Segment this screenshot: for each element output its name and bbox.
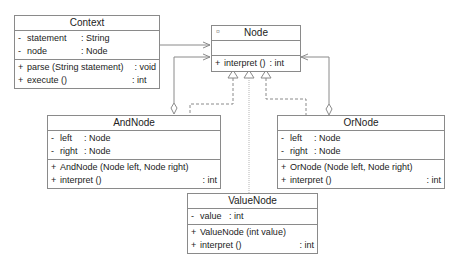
attribute-type: : Node xyxy=(81,45,108,58)
operation-name: interpret () xyxy=(200,239,242,252)
operation-name: interpret () xyxy=(224,57,266,70)
attributes-section: - left : Node - right : Node xyxy=(48,131,220,160)
attribute-row: - left : Node xyxy=(51,132,217,145)
operation-return-type: : int xyxy=(426,174,441,187)
attributes-section xyxy=(212,41,300,56)
interface-icon: ¤ xyxy=(216,26,220,38)
class-name: AndNode xyxy=(48,116,220,131)
attribute-type: : String xyxy=(81,32,110,45)
class-header: ¤ Node xyxy=(212,26,300,41)
visibility: - xyxy=(281,145,290,158)
operation-name: AndNode (Node left, Node right) xyxy=(60,161,189,174)
operations-section: + ValueNode (int value) + interpret () :… xyxy=(188,225,317,253)
attributes-section: - value : int xyxy=(188,209,317,225)
visibility: + xyxy=(215,57,224,70)
operation-row: + ValueNode (int value) xyxy=(191,226,314,239)
operation-return-type: : void xyxy=(134,61,156,74)
operation-row: + interpret () : int xyxy=(51,174,217,187)
operations-section: + AndNode (Node left, Node right) + inte… xyxy=(48,160,220,188)
class-name: Context xyxy=(15,16,159,31)
class-andnode[interactable]: AndNode - left : Node - right : Node + A… xyxy=(47,115,221,189)
visibility: + xyxy=(281,174,290,187)
realization-andnode-node xyxy=(190,70,238,115)
visibility: + xyxy=(18,61,27,74)
attribute-row: - right : Node xyxy=(51,145,217,158)
attribute-name: right xyxy=(290,145,314,158)
attribute-name: left xyxy=(290,132,314,145)
operations-section: + OrNode (Node left, Node right) + inter… xyxy=(278,160,444,188)
class-node[interactable]: ¤ Node + interpret () : int xyxy=(211,25,301,72)
attribute-type: : int xyxy=(229,210,244,223)
operations-section: + parse (String statement) : void + exec… xyxy=(15,60,159,88)
visibility: - xyxy=(191,210,200,223)
visibility: + xyxy=(18,74,27,87)
operation-return-type: : int xyxy=(132,74,156,87)
realization-valuenode-node xyxy=(244,70,254,193)
attributes-section: - statement : String - node : Node xyxy=(15,31,159,60)
class-ornode[interactable]: OrNode - left : Node - right : Node + Or… xyxy=(277,115,445,189)
operation-row: + AndNode (Node left, Node right) xyxy=(51,161,217,174)
visibility: - xyxy=(18,45,27,58)
visibility: + xyxy=(191,239,200,252)
class-context[interactable]: Context - statement : String - node : No… xyxy=(14,15,160,89)
attributes-section: - left : Node - right : Node xyxy=(278,131,444,160)
visibility: + xyxy=(191,226,200,239)
realization-ornode-node xyxy=(261,70,306,115)
visibility: - xyxy=(51,145,60,158)
attribute-name: node xyxy=(27,45,81,58)
operation-row: + interpret () : int xyxy=(191,239,314,252)
class-name: ValueNode xyxy=(188,194,317,209)
attribute-type: : Node xyxy=(314,132,341,145)
attribute-row: - value : int xyxy=(191,210,314,223)
visibility: - xyxy=(281,132,290,145)
attribute-row: - node : Node xyxy=(18,45,156,58)
operation-name: OrNode (Node left, Node right) xyxy=(290,161,413,174)
attribute-name: left xyxy=(60,132,84,145)
visibility: - xyxy=(18,32,27,45)
operation-return-type: : int xyxy=(270,57,285,70)
visibility: + xyxy=(281,161,290,174)
attribute-name: value xyxy=(200,210,229,223)
attribute-name: right xyxy=(60,145,84,158)
operation-return-type: : int xyxy=(202,174,217,187)
visibility: - xyxy=(51,132,60,145)
operation-name: ValueNode (int value) xyxy=(200,226,286,239)
operation-row: + parse (String statement) : void xyxy=(18,61,156,74)
class-valuenode[interactable]: ValueNode - value : int + ValueNode (int… xyxy=(187,193,318,254)
operation-row: + interpret () : int xyxy=(215,57,297,70)
attribute-type: : Node xyxy=(84,132,111,145)
operation-row: + execute () : int xyxy=(18,74,156,87)
visibility: + xyxy=(51,174,60,187)
operation-name: interpret () xyxy=(60,174,102,187)
attribute-row: - left : Node xyxy=(281,132,441,145)
attribute-name: statement xyxy=(27,32,81,45)
attribute-row: - right : Node xyxy=(281,145,441,158)
operation-name: interpret () xyxy=(290,174,332,187)
operation-row: + OrNode (Node left, Node right) xyxy=(281,161,441,174)
attribute-type: : Node xyxy=(314,145,341,158)
operation-return-type: : int xyxy=(299,239,314,252)
attribute-type: : Node xyxy=(84,145,111,158)
operations-section: + interpret () : int xyxy=(212,56,300,71)
visibility: + xyxy=(51,161,60,174)
operation-name: parse (String statement) xyxy=(27,61,124,74)
operation-name: execute () xyxy=(27,74,67,87)
attribute-row: - statement : String xyxy=(18,32,156,45)
class-name: Node xyxy=(244,27,268,38)
class-name: OrNode xyxy=(278,116,444,131)
aggregation-ornode-node xyxy=(301,57,332,115)
operation-row: + interpret () : int xyxy=(281,174,441,187)
